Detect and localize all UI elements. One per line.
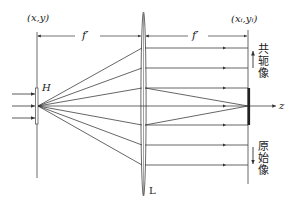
conjugate-image-label: 共轭像	[258, 44, 270, 80]
image-plane	[248, 30, 251, 184]
focal-length-left-label: f′	[82, 29, 89, 42]
ray-direction-dots	[223, 47, 226, 167]
converging-rays	[145, 88, 248, 125]
original-image-label: 原始像	[258, 141, 270, 177]
incident-light-arrows	[12, 94, 35, 118]
hologram-label: H	[42, 82, 51, 93]
lens	[141, 12, 146, 196]
holography-diagram: (x,y) (xᵢ,yᵢ) f′ f′ H L z 共轭像 原始像	[0, 0, 295, 210]
lens-label: L	[149, 185, 156, 196]
object-plane-label: (x,y)	[27, 12, 49, 23]
focal-length-right-label: f′	[192, 29, 199, 42]
collimated-rays	[145, 48, 248, 165]
image-plane-label: (xᵢ,yᵢ)	[231, 13, 257, 24]
z-axis-label: z	[279, 100, 284, 111]
hologram-plane	[36, 32, 39, 178]
image-plane-coords: (xᵢ,yᵢ)	[231, 13, 257, 24]
diverging-rays	[38, 48, 142, 165]
optics-drawing	[0, 0, 295, 210]
